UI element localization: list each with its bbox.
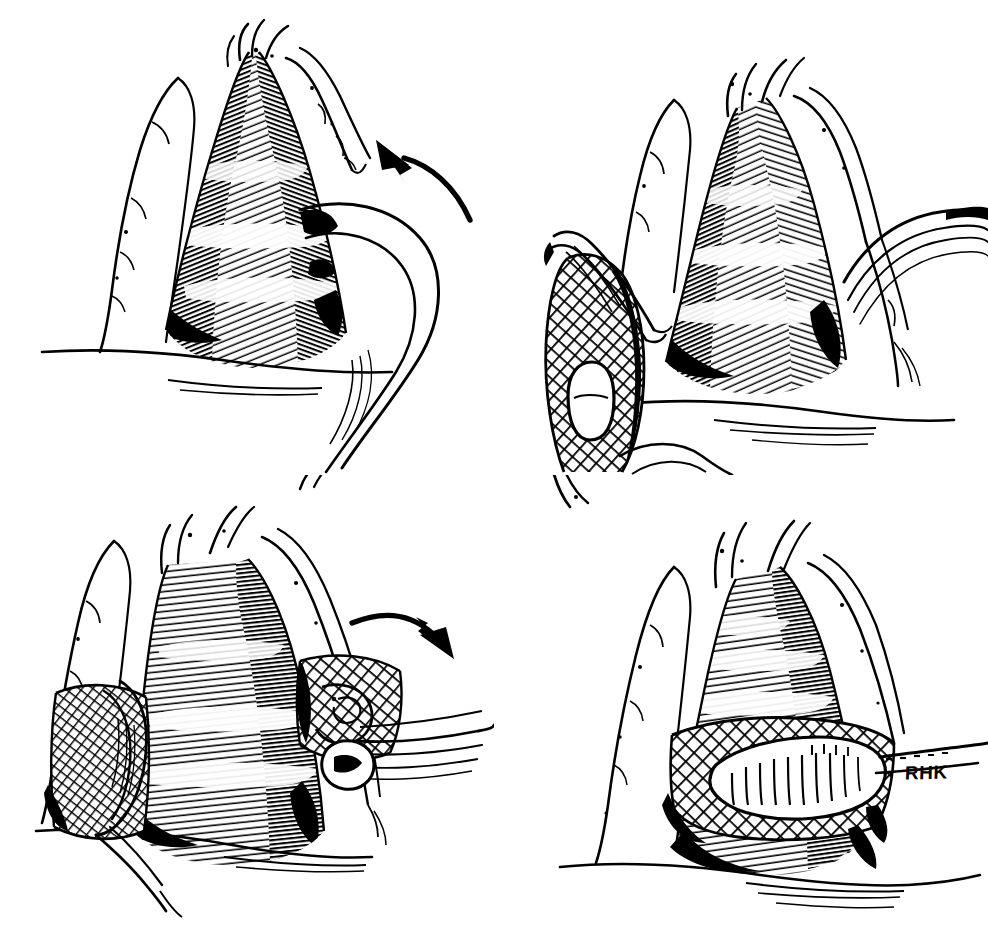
figure-sheet: RHK Surgical technique: stepwise placeme… — [0, 0, 988, 950]
mesh-graft-wrap-left — [40, 671, 160, 851]
illustration-panel-2 — [494, 0, 988, 475]
artist-signature: RHK — [905, 761, 948, 784]
panel-2-drawing — [494, 0, 988, 475]
panel-4-drawing — [494, 475, 988, 950]
illustration-panel-3 — [0, 475, 494, 950]
panel-3-drawing — [0, 475, 494, 950]
graft-fenestration — [568, 362, 614, 440]
panel-1-drawing — [0, 0, 494, 475]
illustration-panel-1 — [0, 0, 494, 475]
illustration-panel-4 — [494, 475, 988, 950]
